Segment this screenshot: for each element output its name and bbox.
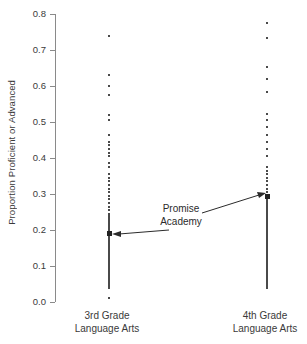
y-tick-mark	[50, 266, 55, 267]
data-point	[108, 206, 110, 208]
point-column-3rd-grade	[104, 0, 114, 305]
data-point	[266, 91, 268, 93]
data-point	[266, 78, 268, 80]
data-point	[108, 198, 110, 200]
data-point	[108, 94, 110, 96]
y-tick-label: 0.8	[33, 9, 46, 19]
y-tick-mark	[50, 158, 55, 159]
data-point	[108, 148, 110, 150]
data-point	[108, 202, 110, 204]
data-point	[266, 134, 268, 136]
data-point	[266, 184, 268, 186]
data-point	[108, 114, 110, 116]
data-point	[108, 188, 110, 190]
y-axis-title: Proportion Proficient or Advanced	[0, 0, 22, 305]
y-tick-label: 0.7	[33, 45, 46, 55]
data-point	[108, 35, 110, 37]
data-point	[266, 177, 268, 179]
y-tick-label: 0.4	[33, 153, 46, 163]
data-point	[108, 134, 110, 136]
y-axis-title-text: Proportion Proficient or Advanced	[6, 80, 17, 225]
data-point	[266, 287, 268, 289]
x-axis-label-4th-grade-line1: 4th Grade	[210, 310, 307, 323]
y-tick-label: 0.0	[33, 297, 46, 307]
data-point	[108, 287, 110, 289]
data-point	[108, 209, 110, 211]
data-point	[266, 66, 268, 68]
y-tick-label: 0.5	[33, 117, 46, 127]
data-point	[266, 180, 268, 182]
x-axis-label-3rd-grade: 3rd Grade Language Arts	[52, 310, 162, 335]
data-point	[266, 166, 268, 168]
data-point	[266, 113, 268, 115]
promise-academy-data-point	[265, 194, 270, 199]
x-axis-label-4th-grade: 4th Grade Language Arts	[210, 310, 307, 335]
promise-academy-data-point	[107, 231, 112, 236]
y-tick-mark	[50, 194, 55, 195]
data-point	[108, 141, 110, 143]
annotation-line-1: Promise	[148, 203, 214, 216]
y-tick-mark	[50, 230, 55, 231]
scatter-chart-figure: Proportion Proficient or Advanced 0.80.7…	[0, 0, 307, 344]
data-point	[266, 170, 268, 172]
data-point	[266, 173, 268, 175]
data-point	[266, 191, 268, 193]
data-point	[108, 144, 110, 146]
promise-academy-annotation: Promise Academy	[148, 203, 214, 228]
data-point	[266, 188, 268, 190]
data-point	[266, 141, 268, 143]
y-tick-mark	[50, 50, 55, 51]
data-point	[108, 166, 110, 168]
data-point	[108, 119, 110, 121]
data-point	[108, 162, 110, 164]
plot-area	[56, 0, 307, 305]
data-point	[108, 152, 110, 154]
data-point	[108, 180, 110, 182]
y-tick-mark	[50, 302, 55, 303]
data-point	[108, 184, 110, 186]
data-point	[266, 155, 268, 157]
x-axis-label-4th-grade-line2: Language Arts	[210, 323, 307, 336]
y-tick-label: 0.1	[33, 261, 46, 271]
y-tick-label: 0.3	[33, 189, 46, 199]
y-tick-label: 0.2	[33, 225, 46, 235]
data-point	[266, 148, 268, 150]
data-point	[266, 37, 268, 39]
data-point	[108, 85, 110, 87]
data-point	[108, 191, 110, 193]
data-point	[108, 173, 110, 175]
data-point	[108, 177, 110, 179]
data-point	[108, 74, 110, 76]
data-point	[108, 155, 110, 157]
y-tick-mark	[50, 122, 55, 123]
annotation-line-2: Academy	[148, 216, 214, 229]
x-axis-label-3rd-grade-line2: Language Arts	[52, 323, 162, 336]
data-point	[266, 119, 268, 121]
point-column-4th-grade	[262, 0, 272, 305]
y-tick-label: 0.6	[33, 81, 46, 91]
y-tick-mark	[50, 14, 55, 15]
x-axis-label-3rd-grade-line1: 3rd Grade	[52, 310, 162, 323]
data-point	[266, 126, 268, 128]
data-point	[108, 195, 110, 197]
y-tick-mark	[50, 86, 55, 87]
data-point	[266, 22, 268, 24]
data-point	[108, 297, 110, 299]
